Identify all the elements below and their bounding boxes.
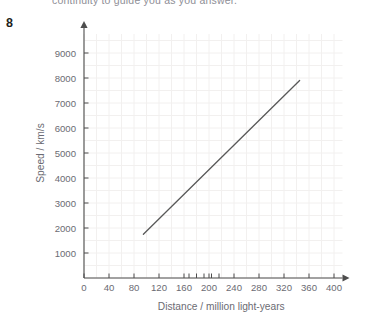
x-tick-label: 240 — [226, 282, 242, 293]
x-tick-label: 360 — [301, 282, 317, 293]
hubble-line-chart: 0408012016020024028032036040010002000300… — [0, 0, 372, 327]
y-axis-title: Speed / km/s — [35, 123, 46, 182]
y-tick-label: 6000 — [55, 123, 76, 134]
x-tick-label: 320 — [276, 282, 292, 293]
y-tick-label: 9000 — [55, 48, 76, 59]
y-tick-label: 4000 — [55, 173, 76, 184]
y-tick-label: 1000 — [55, 248, 76, 259]
y-tick-label: 3000 — [55, 198, 76, 209]
x-tick-label: 400 — [326, 282, 342, 293]
x-tick-label: 80 — [129, 282, 140, 293]
x-axis-title: Distance / million light-years — [158, 301, 285, 312]
y-tick-label: 2000 — [55, 223, 76, 234]
grid-lines — [84, 34, 343, 278]
x-tick-label: 160 — [176, 282, 192, 293]
x-tick-label: 280 — [251, 282, 267, 293]
y-tick-label: 8000 — [55, 73, 76, 84]
x-tick-label: 120 — [151, 282, 167, 293]
y-tick-label: 7000 — [55, 98, 76, 109]
worksheet-page: continuity to guide you as you answer. 8… — [0, 0, 372, 327]
x-tick-label: 0 — [81, 282, 86, 293]
chart-svg: 0408012016020024028032036040010002000300… — [0, 0, 372, 327]
tick-labels: 0408012016020024028032036040010002000300… — [55, 48, 342, 294]
y-tick-label: 5000 — [55, 148, 76, 159]
x-tick-label: 200 — [201, 282, 217, 293]
x-tick-label: 40 — [104, 282, 115, 293]
